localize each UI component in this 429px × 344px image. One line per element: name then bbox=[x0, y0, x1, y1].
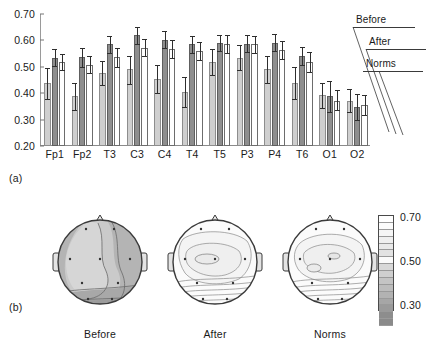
bar-group-fp1 bbox=[44, 14, 65, 146]
y-axis-tick-label: 0.20 bbox=[14, 140, 35, 152]
bar-group-o1 bbox=[319, 14, 340, 146]
error-bar-cap bbox=[100, 85, 105, 86]
error-bar bbox=[212, 49, 213, 75]
bar-norms-t5 bbox=[224, 44, 230, 146]
error-bar-cap bbox=[127, 56, 132, 57]
error-bar-cap bbox=[320, 83, 325, 84]
error-bar bbox=[295, 67, 296, 99]
error-bar-cap bbox=[307, 52, 312, 53]
error-bar-cap bbox=[107, 36, 112, 37]
error-bar-cap bbox=[182, 77, 187, 78]
error-bar-cap bbox=[252, 53, 257, 54]
error-bar bbox=[275, 34, 276, 51]
error-bar-cap bbox=[100, 61, 105, 62]
bar-after-fp1 bbox=[52, 58, 58, 146]
colorbar-min-label: 0.30 bbox=[400, 299, 421, 311]
error-bar-cap bbox=[80, 48, 85, 49]
x-axis-label-fp2: Fp2 bbox=[73, 148, 92, 160]
error-bar-cap bbox=[115, 67, 120, 68]
error-bar-cap bbox=[217, 51, 222, 52]
bar-norms-t3 bbox=[114, 57, 120, 146]
error-bar-cap bbox=[307, 72, 312, 73]
bar-norms-fp1 bbox=[59, 62, 65, 146]
error-bar-cap bbox=[280, 41, 285, 42]
error-bar bbox=[200, 42, 201, 60]
topomap-caption-before: Before bbox=[48, 328, 152, 340]
x-axis-label-p3: P3 bbox=[241, 148, 254, 160]
bar-after-t6 bbox=[299, 56, 305, 146]
bar-norms-fp2 bbox=[86, 65, 92, 146]
error-bar-cap bbox=[135, 44, 140, 45]
topomap-caption-norms: Norms bbox=[278, 328, 382, 340]
error-bar-cap bbox=[252, 36, 257, 37]
bar-norms-t4 bbox=[196, 51, 202, 146]
error-bar bbox=[55, 49, 56, 66]
error-bar-cap bbox=[272, 34, 277, 35]
colorbar-segment bbox=[379, 244, 393, 251]
error-bar-cap bbox=[327, 112, 332, 113]
error-bar-cap bbox=[170, 40, 175, 41]
error-bar-cap bbox=[335, 90, 340, 91]
colorbar-segment bbox=[379, 257, 393, 264]
bar-group-t3 bbox=[99, 14, 120, 146]
panel-a-label: (a) bbox=[9, 172, 22, 184]
bar-norms-t6 bbox=[306, 62, 312, 146]
error-bar-cap bbox=[107, 53, 112, 54]
error-bar-cap bbox=[335, 110, 340, 111]
panel-b-label: (b) bbox=[9, 301, 22, 313]
y-axis-line bbox=[40, 14, 41, 146]
x-axis-label-c3: C3 bbox=[130, 148, 144, 160]
error-bar-cap bbox=[155, 65, 160, 66]
error-bar bbox=[255, 36, 256, 53]
colorbar-segment bbox=[379, 264, 393, 271]
error-bar bbox=[145, 39, 146, 56]
bar-after-fp2 bbox=[79, 57, 85, 146]
error-bar bbox=[165, 31, 166, 48]
error-bar-cap bbox=[142, 56, 147, 57]
colorbar-segment bbox=[379, 305, 393, 312]
bar-group-c4 bbox=[154, 14, 175, 146]
error-bar bbox=[267, 56, 268, 82]
x-axis-label-t4: T4 bbox=[186, 148, 199, 160]
bar-after-c4 bbox=[162, 40, 168, 146]
colorbar-segment bbox=[379, 223, 393, 230]
bar-after-p4 bbox=[272, 43, 278, 146]
error-bar-cap bbox=[170, 58, 175, 59]
error-bar-cap bbox=[135, 27, 140, 28]
error-bar-cap bbox=[142, 39, 147, 40]
bar-norms-p3 bbox=[251, 44, 257, 146]
error-bar bbox=[227, 35, 228, 53]
x-axis-label-fp1: Fp1 bbox=[45, 148, 64, 160]
y-axis-tick-label: 0.60 bbox=[14, 34, 35, 46]
x-axis-label-t3: T3 bbox=[103, 148, 116, 160]
error-bar bbox=[137, 27, 138, 44]
error-bar-cap bbox=[52, 49, 57, 50]
bar-chart-plot-area: 0.700.600.500.400.300.20Fp1Fp2T3C3C4T4T5… bbox=[40, 14, 370, 146]
error-bar-cap bbox=[210, 49, 215, 50]
error-bar bbox=[102, 61, 103, 85]
bar-group-t4 bbox=[182, 14, 203, 146]
bar-after-t4 bbox=[189, 44, 195, 146]
error-bar bbox=[337, 90, 338, 110]
colorbar-segment bbox=[379, 271, 393, 278]
error-bar bbox=[282, 41, 283, 59]
error-bar bbox=[82, 48, 83, 66]
error-bar-cap bbox=[245, 35, 250, 36]
error-bar-cap bbox=[190, 36, 195, 37]
error-bar bbox=[62, 54, 63, 71]
error-bar bbox=[247, 35, 248, 52]
bar-group-fp2 bbox=[72, 14, 93, 146]
error-bar bbox=[75, 83, 76, 111]
bar-after-t3 bbox=[107, 44, 113, 146]
x-axis-label-p4: P4 bbox=[268, 148, 281, 160]
error-bar-cap bbox=[225, 35, 230, 36]
topomap-norms: Norms bbox=[278, 209, 382, 313]
error-bar bbox=[117, 48, 118, 67]
error-bar bbox=[172, 40, 173, 58]
y-axis-tick-label: 0.70 bbox=[14, 8, 35, 20]
bar-group-c3 bbox=[127, 14, 148, 146]
colorbar-max-label: 0.70 bbox=[400, 211, 421, 223]
error-bar-cap bbox=[197, 60, 202, 61]
error-bar-cap bbox=[52, 66, 57, 67]
error-bar-cap bbox=[72, 110, 77, 111]
